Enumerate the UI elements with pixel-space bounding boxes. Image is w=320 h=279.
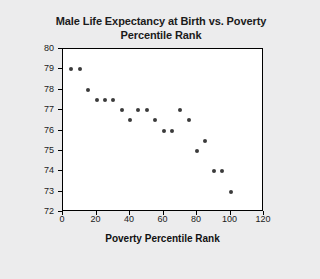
- scatter-point: [153, 118, 157, 122]
- scatter-point: [78, 67, 82, 71]
- y-tick-label: 80: [38, 43, 54, 53]
- scatter-point: [212, 169, 216, 173]
- y-tick-label: 76: [38, 125, 54, 135]
- scatter-point: [86, 88, 90, 92]
- chart-title-line-1: Male Life Expectancy at Birth vs. Povert…: [56, 15, 266, 27]
- x-tick-label: 0: [50, 214, 74, 224]
- x-tick-mark: [163, 211, 164, 215]
- scatter-point: [136, 108, 140, 112]
- scatter-point: [170, 129, 174, 133]
- scatter-point: [111, 98, 115, 102]
- scatter-point: [145, 108, 149, 112]
- x-tick-mark: [129, 211, 130, 215]
- scatter-point: [120, 108, 124, 112]
- y-tick-label: 73: [38, 186, 54, 196]
- scatter-point: [128, 118, 132, 122]
- chart-figure: Male Life Expectancy at Birth vs. Povert…: [0, 0, 320, 279]
- y-tick-label: 75: [38, 145, 54, 155]
- scatter-point: [220, 169, 224, 173]
- x-tick-label: 20: [84, 214, 108, 224]
- chart-title: Male Life Expectancy at Birth vs. Povert…: [26, 14, 296, 42]
- y-tick-label: 78: [38, 84, 54, 94]
- x-tick-label: 60: [151, 214, 175, 224]
- chart-title-line-2: Percentile Rank: [120, 29, 201, 41]
- x-tick-label: 100: [218, 214, 242, 224]
- scatter-point: [178, 108, 182, 112]
- x-tick-label: 120: [251, 214, 275, 224]
- scatter-point: [95, 98, 99, 102]
- x-tick-mark: [96, 211, 97, 215]
- scatter-points-layer: [63, 49, 262, 210]
- scatter-point: [187, 118, 191, 122]
- x-tick-label: 40: [117, 214, 141, 224]
- scatter-point: [69, 67, 73, 71]
- scatter-point: [162, 129, 166, 133]
- y-tick-label: 77: [38, 104, 54, 114]
- y-tick-label: 79: [38, 63, 54, 73]
- scatter-point: [195, 149, 199, 153]
- x-tick-mark: [196, 211, 197, 215]
- x-axis-title: Poverty Percentile Rank: [62, 233, 263, 244]
- y-tick-label: 74: [38, 165, 54, 175]
- scatter-point: [203, 139, 207, 143]
- x-tick-label: 80: [184, 214, 208, 224]
- x-tick-mark: [263, 211, 264, 215]
- x-tick-mark: [62, 211, 63, 215]
- plot-area: [62, 48, 263, 211]
- scatter-point: [229, 190, 233, 194]
- x-tick-mark: [230, 211, 231, 215]
- scatter-point: [103, 98, 107, 102]
